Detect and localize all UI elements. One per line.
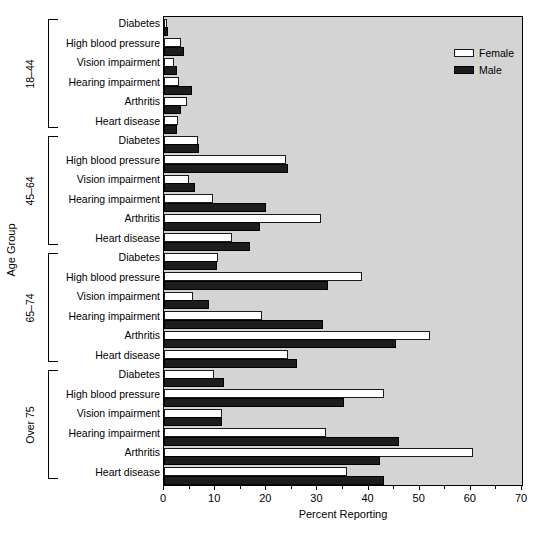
category-label: High blood pressure xyxy=(58,38,160,49)
x-tick-minor xyxy=(444,485,445,489)
category-label: Vision impairment xyxy=(58,291,160,302)
category-label: Heart disease xyxy=(58,350,160,361)
category-label: Diabetes xyxy=(58,369,160,380)
x-tick-major xyxy=(470,485,471,490)
bar-male xyxy=(164,261,217,270)
age-group-2: 45–64 xyxy=(22,136,58,245)
bar-male xyxy=(164,398,344,407)
bar-male xyxy=(164,339,396,348)
x-tick-label: 70 xyxy=(515,492,527,504)
bar-male xyxy=(164,47,184,56)
category-label: Vision impairment xyxy=(58,57,160,68)
group-label-text: 18–44 xyxy=(24,59,36,88)
x-tick-major xyxy=(163,485,164,490)
bar-male xyxy=(164,164,288,173)
x-tick-major xyxy=(368,485,369,490)
group-label: Over 75 xyxy=(16,370,44,479)
category-label: High blood pressure xyxy=(58,272,160,283)
x-tick-major xyxy=(265,485,266,490)
x-tick-minor xyxy=(342,485,343,489)
category-label: Arthritis xyxy=(58,213,160,224)
x-tick-label: 40 xyxy=(361,492,373,504)
bar-male xyxy=(164,320,323,329)
bar-male xyxy=(164,281,328,290)
bar-male xyxy=(164,359,297,368)
group-bracket-icon xyxy=(48,370,58,479)
x-tick-major xyxy=(521,485,522,490)
category-label: Vision impairment xyxy=(58,174,160,185)
bar-male xyxy=(164,125,177,134)
x-tick-label: 60 xyxy=(464,492,476,504)
bar-male xyxy=(164,476,384,485)
x-tick-minor xyxy=(291,485,292,489)
bar-male xyxy=(164,27,168,36)
bar-male xyxy=(164,437,399,446)
category-label: Hearing impairment xyxy=(58,428,160,439)
legend-swatch-male-icon xyxy=(454,66,474,74)
x-tick-minor xyxy=(240,485,241,489)
x-tick-major xyxy=(419,485,420,490)
bar-male xyxy=(164,183,195,192)
x-tick-label: 10 xyxy=(208,492,220,504)
x-tick-label: 50 xyxy=(413,492,425,504)
x-tick-minor xyxy=(393,485,394,489)
legend: Female Male xyxy=(454,47,514,81)
bar-male xyxy=(164,378,224,387)
category-label: Arthritis xyxy=(58,330,160,341)
bar-male xyxy=(164,144,199,153)
category-label: Hearing impairment xyxy=(58,194,160,205)
x-tick-label: 0 xyxy=(160,492,166,504)
x-tick-label: 30 xyxy=(310,492,322,504)
x-axis-title: Percent Reporting xyxy=(163,508,523,520)
age-group-1: 18–44 xyxy=(22,19,58,128)
group-label: 18–44 xyxy=(16,19,44,128)
group-label-text: 45–64 xyxy=(24,176,36,205)
bars-container xyxy=(164,17,522,485)
legend-label-female: Female xyxy=(479,47,514,59)
category-label: Diabetes xyxy=(58,18,160,29)
bar-male xyxy=(164,105,181,114)
category-label: Hearing impairment xyxy=(58,311,160,322)
bar-male xyxy=(164,222,260,231)
category-label: Heart disease xyxy=(58,467,160,478)
bar-male xyxy=(164,456,380,465)
group-label-text: Over 75 xyxy=(24,406,36,443)
legend-label-male: Male xyxy=(479,64,502,76)
category-label: High blood pressure xyxy=(58,389,160,400)
group-label: 45–64 xyxy=(16,136,44,245)
legend-swatch-female-icon xyxy=(454,49,474,57)
group-bracket-icon xyxy=(48,136,58,245)
category-label: Heart disease xyxy=(58,233,160,244)
x-tick-label: 20 xyxy=(259,492,271,504)
category-label: Hearing impairment xyxy=(58,77,160,88)
group-bracket-icon xyxy=(48,253,58,362)
bar-male xyxy=(164,86,192,95)
group-bracket-icon xyxy=(48,19,58,128)
group-label-text: 65–74 xyxy=(24,293,36,322)
bar-male xyxy=(164,300,209,309)
x-axis-title-text: Percent Reporting xyxy=(299,508,388,520)
bar-male xyxy=(164,242,250,251)
x-tick-minor xyxy=(189,485,190,489)
age-group-4: Over 75 xyxy=(22,370,58,479)
category-label: Vision impairment xyxy=(58,408,160,419)
bar-chart: Age Group 18–4445–6465–74Over 75 Diabete… xyxy=(0,0,549,539)
category-label: Diabetes xyxy=(58,252,160,263)
category-label: Heart disease xyxy=(58,116,160,127)
age-group-3: 65–74 xyxy=(22,253,58,362)
bar-male xyxy=(164,417,222,426)
group-label: 65–74 xyxy=(16,253,44,362)
plot-area: Female Male xyxy=(163,16,523,486)
category-label: High blood pressure xyxy=(58,155,160,166)
category-label: Diabetes xyxy=(58,135,160,146)
category-label: Arthritis xyxy=(58,447,160,458)
x-tick-minor xyxy=(495,485,496,489)
legend-item-male: Male xyxy=(454,64,514,76)
x-tick-major xyxy=(316,485,317,490)
bar-male xyxy=(164,66,177,75)
legend-item-female: Female xyxy=(454,47,514,59)
category-label: Arthritis xyxy=(58,96,160,107)
bar-male xyxy=(164,203,266,212)
x-tick-major xyxy=(214,485,215,490)
